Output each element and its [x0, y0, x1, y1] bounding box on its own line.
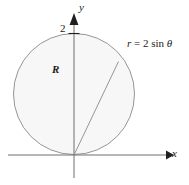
x-axis-label: x — [172, 148, 177, 159]
y-axis-label: y — [79, 2, 84, 13]
y-axis-arrowhead — [70, 13, 79, 25]
curve-equation-rhs: 2 sin — [143, 37, 164, 49]
curve-equation-theta: θ — [167, 37, 172, 49]
y-tick-label-2: 2 — [60, 23, 66, 34]
region-label-r: R — [52, 64, 59, 75]
polar-circle-figure: y x 2 R r = 2 sin θ — [0, 0, 189, 185]
figure-canvas — [0, 0, 189, 185]
curve-equation-label: r = 2 sin θ — [127, 38, 172, 49]
